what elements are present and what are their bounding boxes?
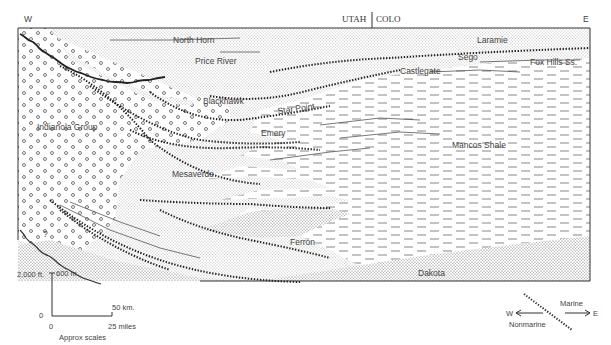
- facies-legend: Marine E W Nonmarine: [506, 294, 598, 330]
- label-fox-hills: Fox Hills Ss.: [530, 57, 577, 67]
- west-orientation-label: W: [24, 14, 32, 24]
- label-laramie: Laramie: [477, 35, 508, 45]
- scale-vertical-ft: 2,000 ft.: [17, 270, 44, 279]
- label-indianola-group: Indianola Group: [37, 122, 98, 132]
- scale-zero-horizontal: 0: [49, 322, 53, 331]
- legend-east: E: [593, 309, 598, 318]
- scale-vertical-m: 600 m.: [56, 269, 79, 278]
- cross-section-diagram: W E UTAH COLO: [0, 0, 611, 345]
- label-mancos-shale: Mancos Shale: [452, 140, 506, 150]
- state-label-colo: COLO: [376, 14, 401, 24]
- scale-horizontal-miles: 25 miles: [108, 322, 136, 331]
- label-castlegate: Castlegate: [400, 66, 441, 76]
- scale-horizontal-km: 50 km.: [112, 303, 135, 312]
- label-sego: Sego: [458, 52, 478, 62]
- east-orientation-label: E: [583, 14, 589, 24]
- label-dakota: Dakota: [418, 268, 445, 278]
- label-price-river: Price River: [195, 56, 237, 66]
- scale-caption: Approx scales: [59, 333, 106, 342]
- label-blackhawk: Blackhawk: [203, 96, 244, 106]
- legend-west: W: [506, 309, 514, 318]
- legend-nonmarine: Nonmarine: [509, 320, 546, 329]
- label-mesaverde: Mesaverde: [172, 169, 214, 179]
- uncertain-marker: ?: [43, 229, 48, 239]
- legend-marine: Marine: [560, 299, 583, 308]
- label-ferron: Ferron: [290, 237, 315, 247]
- state-label-utah: UTAH: [342, 14, 367, 24]
- label-emery: Emery: [261, 128, 286, 138]
- scale-zero-vertical: 0: [39, 311, 43, 320]
- label-north-horn: North Horn: [173, 35, 215, 45]
